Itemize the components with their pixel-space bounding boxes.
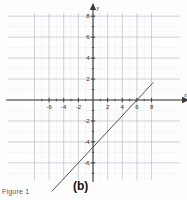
panel-label: (b) [73, 180, 88, 192]
x-axis-arrow [182, 97, 187, 103]
x-tick-label: -2 [76, 104, 82, 110]
x-tick-label: -6 [46, 104, 52, 110]
y-axis-arrow [90, 3, 96, 10]
x-tick-label: 8 [150, 104, 154, 110]
figure-caption: Figure 1 [2, 188, 29, 195]
coordinate-plane-chart: -6-4-224688642-2-4-6xy [0, 0, 187, 200]
figure-container: -6-4-224688642-2-4-6xy Figure 1 (b) [0, 0, 187, 200]
y-axis-label: y [96, 5, 100, 11]
y-tick-label: -6 [84, 160, 90, 166]
axes [6, 3, 187, 182]
grid-lines [8, 13, 180, 180]
x-tick-label: 2 [106, 104, 110, 110]
plotted-line [52, 83, 153, 191]
y-tick-label: -4 [84, 139, 90, 145]
y-tick-label: -2 [84, 118, 90, 124]
x-tick-label: -4 [61, 104, 67, 110]
x-axis-label: x [183, 92, 187, 98]
data-series [52, 83, 153, 191]
x-tick-label: 6 [135, 104, 139, 110]
x-tick-label: 4 [121, 104, 125, 110]
